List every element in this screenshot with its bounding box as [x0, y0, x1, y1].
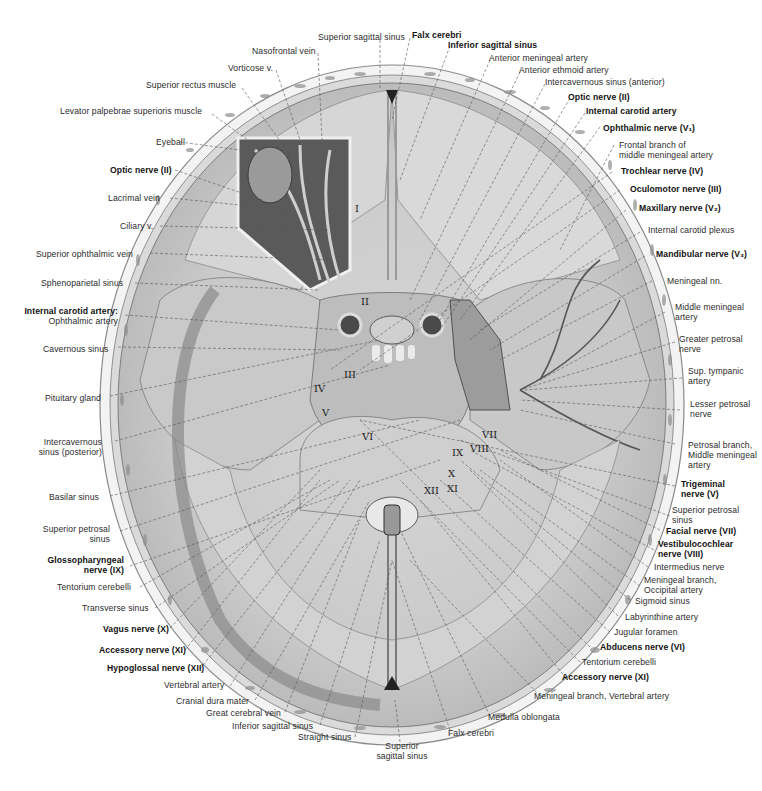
label-internal-carotid-artery: Internal carotid artery	[586, 106, 677, 116]
label-petrosal-branch-mma: Petrosal branch, Middle meningeal artery	[688, 440, 757, 470]
label-intercavernous-sinus-anterior: Intercavernous sinus (anterior)	[545, 77, 665, 87]
label-glossopharyngeal-nerve: Glossopharyngeal nerve (IX)	[38, 555, 124, 575]
label-accessory-nerve-right: Accessory nerve (XI)	[562, 672, 649, 682]
marker-XII: XII	[424, 485, 439, 496]
label-trigeminal-nerve: Trigeminal nerve (V)	[681, 479, 725, 499]
label-ophthalmic-nerve: Ophthalmic nerve (V₁)	[603, 123, 695, 133]
label-optic-nerve-left: Optic nerve (II)	[110, 165, 172, 175]
marker-V: V	[321, 407, 330, 418]
label-eyeball: Eyeball	[156, 137, 185, 147]
label-pituitary-gland: Pituitary gland	[45, 393, 101, 403]
label-anterior-meningeal-artery: Anterior meningeal artery	[489, 53, 588, 63]
label-greater-petrosal-nerve: Greater petrosal nerve	[679, 334, 743, 354]
label-superior-sagittal-sinus-bottom: Superior sagittal sinus	[362, 741, 442, 761]
label-hypoglossal-nerve: Hypoglossal nerve (XII)	[107, 663, 204, 673]
label-optic-nerve-right: Optic nerve (II)	[568, 92, 630, 102]
label-vestibulocochlear-nerve: Vestibulocochlear nerve (VIII)	[658, 539, 733, 559]
label-jugular-foramen: Jugular foramen	[614, 627, 678, 637]
anatomy-figure: I II III IV V VI VII VIII IX X XI XII Su…	[0, 0, 762, 791]
label-ciliary-v: Ciliary v.	[120, 221, 153, 231]
label-tentorium-cerebelli-right: Tentorium cerebelli	[582, 657, 656, 667]
marker-IV: IV	[314, 383, 326, 394]
label-internal-carotid-plexus: Internal carotid plexus	[648, 225, 734, 235]
label-maxillary-nerve: Maxillary nerve (V₂)	[639, 203, 721, 213]
label-anterior-ethmoid-artery: Anterior ethmoid artery	[519, 65, 609, 75]
marker-I: I	[355, 203, 359, 214]
label-transverse-sinus: Transverse sinus	[82, 603, 149, 613]
label-superior-ophthalmic-vein: Superior ophthalmic vein	[36, 249, 133, 259]
label-sphenoparietal-sinus: Sphenoparietal sinus	[41, 278, 123, 288]
label-frontal-branch-mma: Frontal branch of middle meningeal arter…	[619, 140, 713, 160]
label-basilar-sinus: Basilar sinus	[49, 492, 99, 502]
label-superior-sagittal-sinus-top: Superior sagittal sinus	[318, 32, 405, 42]
label-falx-cerebri-top: Falx cerebri	[412, 30, 461, 40]
label-vagus-nerve: Vagus nerve (X)	[103, 624, 169, 634]
label-labyrinthine-artery: Labyrinthine artery	[625, 612, 698, 622]
label-vorticose-v: Vorticose v.	[228, 63, 273, 73]
label-abducens-nerve: Abducens nerve (VI)	[600, 642, 685, 652]
label-inferior-sagittal-sinus-bottom: Inferior sagittal sinus	[232, 721, 313, 731]
label-middle-meningeal-artery: Middle meningeal artery	[675, 302, 744, 322]
marker-X: X	[448, 468, 456, 479]
label-medulla-oblongata: Medulla oblongata	[488, 712, 560, 722]
label-meningeal-branch-vertebral: Meningeal branch, Vertebral artery	[534, 691, 669, 701]
marker-XI: XI	[447, 483, 458, 494]
label-falx-cerebri-bottom: Falx cerebri	[448, 728, 494, 738]
marker-VI: VI	[361, 431, 373, 442]
label-superior-petrosal-sinus-left: Superior petrosal sinus	[30, 524, 110, 544]
label-accessory-nerve-left: Accessory nerve (XI)	[99, 645, 186, 655]
label-vertebral-artery: Vertebral artery	[164, 680, 224, 690]
marker-IX: IX	[452, 447, 464, 458]
label-meningeal-branch-occipital: Meningeal branch, Occipital artery	[644, 575, 716, 595]
label-mandibular-nerve: Mandibular nerve (V₃)	[656, 249, 747, 259]
label-tentorium-cerebelli-left: Tentorium cerebelli	[57, 582, 131, 592]
marker-VIII: VIII	[469, 443, 489, 454]
label-intercavernous-sinus-posterior: Intercavernous sinus (posterior)	[24, 437, 102, 457]
label-cranial-dura-mater: Cranial dura mater	[176, 696, 249, 706]
label-meningeal-nn: Meningeal nn.	[667, 276, 722, 286]
label-sigmoid-sinus: Sigmoid sinus	[635, 596, 690, 606]
label-nasofrontal-vein: Nasofrontal vein	[252, 46, 316, 56]
label-superior-petrosal-sinus-right: Superior petrosal sinus	[672, 505, 739, 525]
marker-III: III	[344, 369, 356, 380]
label-levator-palpebrae: Levator palpebrae superioris muscle	[60, 106, 202, 116]
label-straight-sinus: Straight sinus	[298, 732, 351, 742]
label-inferior-sagittal-sinus-top: Inferior sagittal sinus	[448, 40, 537, 50]
label-trochlear-nerve: Trochlear nerve (IV)	[621, 166, 703, 176]
label-sup-tympanic-artery: Sup. tympanic artery	[688, 366, 744, 386]
label-intermedius-nerve: Intermedius nerve	[654, 562, 724, 572]
marker-II: II	[361, 296, 369, 307]
marker-VII: VII	[481, 429, 497, 440]
label-internal-carotid-ophthalmic: Internal carotid artery: Ophthalmic arte…	[22, 306, 118, 326]
label-oculomotor-nerve: Oculomotor nerve (III)	[630, 184, 722, 194]
label-lacrimal-vein: Lacrimal vein	[108, 193, 160, 203]
label-lesser-petrosal-nerve: Lesser petrosal nerve	[690, 399, 750, 419]
label-cavernous-sinus: Cavernous sinus	[43, 344, 109, 354]
label-superior-rectus-muscle: Superior rectus muscle	[146, 80, 236, 90]
label-facial-nerve: Facial nerve (VII)	[666, 526, 736, 536]
label-great-cerebral-vein: Great cerebral vein	[206, 708, 281, 718]
